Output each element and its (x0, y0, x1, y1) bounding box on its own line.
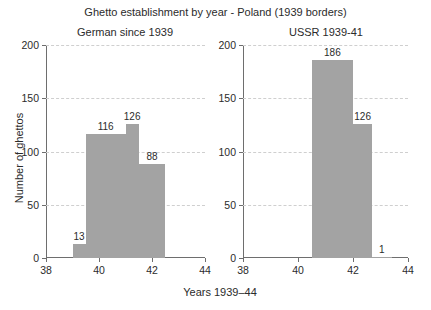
bar (353, 124, 372, 258)
y-axis-tick-label: 100 (21, 146, 39, 158)
y-axis-tick (239, 45, 243, 46)
x-axis-tick-label: 40 (292, 264, 304, 276)
y-axis-tick-label: 150 (218, 92, 236, 104)
bar (139, 164, 166, 258)
x-axis-tick (99, 258, 100, 262)
bar-value-label: 126 (124, 111, 141, 122)
y-axis-tick-label: 50 (27, 199, 39, 211)
bar (86, 134, 126, 258)
bar-value-label: 88 (146, 151, 157, 162)
x-axis-tick-label: 42 (146, 264, 158, 276)
x-axis-tick-label: 38 (40, 264, 52, 276)
gridline (46, 45, 205, 46)
y-axis-tick-label: 0 (33, 252, 39, 264)
y-axis-tick-label: 200 (218, 39, 236, 51)
y-axis-tick-label: 200 (21, 39, 39, 51)
plot-area-ussr: 050100150200384042441861261 (243, 45, 408, 258)
chart-figure: Ghetto establishment by year - Poland (1… (0, 0, 431, 310)
x-axis-tick (298, 258, 299, 262)
x-axis-tick (408, 258, 409, 262)
y-axis-tick-label: 0 (230, 252, 236, 264)
y-axis-tick (42, 98, 46, 99)
panel-title-ussr: USSR 1939-41 (238, 26, 414, 38)
y-axis-tick-label: 150 (21, 92, 39, 104)
x-axis-tick (152, 258, 153, 262)
bar (126, 124, 139, 258)
x-axis-label: Years 1939–44 (120, 286, 320, 298)
gridline (243, 45, 408, 46)
y-axis-tick (239, 152, 243, 153)
y-axis-tick (42, 45, 46, 46)
y-axis-tick (42, 205, 46, 206)
bar-value-label: 116 (98, 121, 114, 132)
bar-value-label: 13 (74, 231, 85, 242)
bar (312, 60, 353, 258)
y-axis-tick (42, 152, 46, 153)
x-axis-tick (46, 258, 47, 262)
x-axis-tick-label: 42 (347, 264, 359, 276)
y-axis-tick-label: 50 (224, 199, 236, 211)
x-axis-tick-label: 40 (93, 264, 105, 276)
bar-value-label: 1 (379, 244, 385, 255)
gridline (46, 98, 205, 99)
y-axis-tick-label: 100 (218, 146, 236, 158)
y-axis-tick (239, 98, 243, 99)
y-axis-tick (239, 205, 243, 206)
x-axis-tick-label: 44 (199, 264, 211, 276)
bar-value-label: 186 (324, 47, 341, 58)
x-axis-tick-label: 44 (402, 264, 414, 276)
bar (73, 244, 86, 258)
plot-area-german: 050100150200384042441311612688 (46, 45, 205, 258)
panel-title-german: German since 1939 (40, 26, 210, 38)
bar (372, 257, 391, 258)
x-axis-tick (205, 258, 206, 262)
x-axis-tick (353, 258, 354, 262)
page-title: Ghetto establishment by year - Poland (1… (0, 6, 431, 18)
bar-value-label: 126 (354, 111, 371, 122)
x-axis-tick (243, 258, 244, 262)
x-axis-tick-label: 38 (237, 264, 249, 276)
